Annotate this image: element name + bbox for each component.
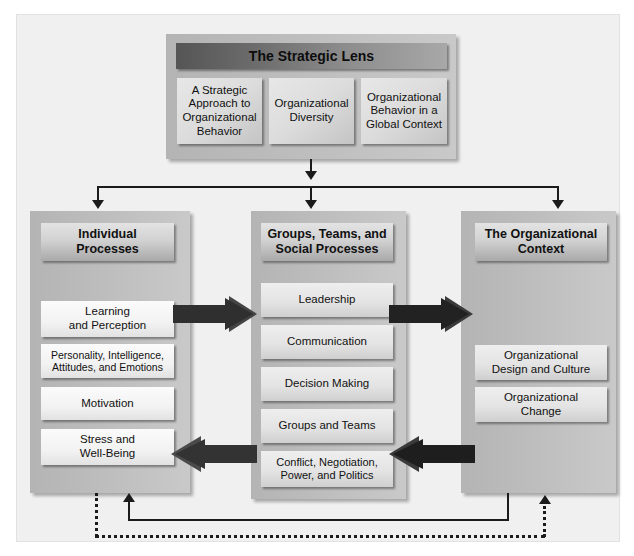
organizational-context-item-0[interactable]: Organizational Design and Culture [475, 345, 607, 380]
individual-processes-item-1-label: Personality, Intelligence, Attitudes, an… [41, 349, 174, 374]
individual-processes-item-3[interactable]: Stress and Well-Being [41, 429, 174, 465]
feedback-dotted-arrow-icon [539, 495, 551, 504]
strategic-lens-banner-label: The Strategic Lens [176, 48, 447, 65]
groups-teams-item-2[interactable]: Decision Making [261, 367, 393, 401]
arrow-individual-to-groups-icon [173, 296, 257, 332]
organizational-context-header-label: The Organizational Context [475, 227, 607, 257]
distributor-bar-line [97, 186, 559, 188]
groups-teams-item-0[interactable]: Leadership [261, 283, 393, 317]
feedback-dotted-right-line [543, 506, 546, 537]
distributor-left-arrow-icon [92, 200, 104, 209]
individual-processes-item-0[interactable]: Learning and Perception [41, 301, 174, 337]
groups-teams-item-3-label: Groups and Teams [261, 419, 393, 433]
feedback-dotted-bottom-line [95, 535, 545, 538]
strategic-lens-item-0[interactable]: A Strategic Approach to Organizational B… [177, 78, 262, 144]
strategic-lens-item-2[interactable]: Organizational Behavior in a Global Cont… [361, 78, 447, 144]
arrow-groups-to-individual-icon [171, 436, 257, 472]
groups-teams-item-1[interactable]: Communication [261, 325, 393, 359]
feedback-dotted-left-line [95, 493, 98, 537]
groups-teams-header: Groups, Teams, and Social Processes [261, 223, 393, 261]
diagram-root: The Strategic Lens A Strategic Approach … [0, 0, 634, 556]
organizational-context-header: The Organizational Context [475, 223, 607, 261]
strategic-lens-item-0-label: A Strategic Approach to Organizational B… [177, 84, 262, 138]
strategic-lens-item-2-label: Organizational Behavior in a Global Cont… [361, 91, 447, 132]
groups-teams-item-2-label: Decision Making [261, 377, 393, 391]
diagram-canvas: The Strategic Lens A Strategic Approach … [16, 14, 620, 542]
strategic-lens-banner: The Strategic Lens [176, 43, 447, 69]
individual-processes-item-3-label: Stress and Well-Being [41, 433, 174, 460]
groups-teams-item-4[interactable]: Conflict, Negotiation, Power, and Politi… [261, 451, 393, 487]
groups-teams-header-label: Groups, Teams, and Social Processes [261, 227, 393, 257]
organizational-context-item-0-label: Organizational Design and Culture [475, 349, 607, 376]
strategic-lens-item-1-label: Organizational Diversity [269, 97, 354, 124]
arrow-groups-to-context-icon [389, 296, 473, 332]
groups-teams-item-4-label: Conflict, Negotiation, Power, and Politi… [261, 456, 393, 482]
distributor-middle-arrow-icon [305, 200, 317, 209]
individual-processes-header-label: Individual Processes [41, 227, 174, 257]
lens-stem-arrow-icon [305, 171, 317, 180]
groups-teams-item-0-label: Leadership [261, 293, 393, 307]
individual-processes-item-1[interactable]: Personality, Intelligence, Attitudes, an… [41, 344, 174, 378]
groups-teams-item-3[interactable]: Groups and Teams [261, 409, 393, 443]
feedback-solid-bottom-line [128, 519, 509, 521]
individual-processes-item-2[interactable]: Motivation [41, 387, 174, 420]
distributor-right-arrow-icon [552, 200, 564, 209]
feedback-solid-arrow-icon [123, 493, 135, 502]
groups-teams-item-1-label: Communication [261, 335, 393, 349]
arrow-context-to-groups-icon [389, 436, 475, 472]
organizational-context-item-1-label: Organizational Change [475, 391, 607, 418]
feedback-solid-right-line [507, 493, 509, 521]
individual-processes-item-0-label: Learning and Perception [41, 305, 174, 332]
individual-processes-header: Individual Processes [41, 223, 174, 261]
feedback-solid-left-line [128, 502, 130, 521]
organizational-context-item-1[interactable]: Organizational Change [475, 387, 607, 422]
strategic-lens-item-1[interactable]: Organizational Diversity [269, 78, 354, 144]
individual-processes-item-2-label: Motivation [41, 397, 174, 411]
